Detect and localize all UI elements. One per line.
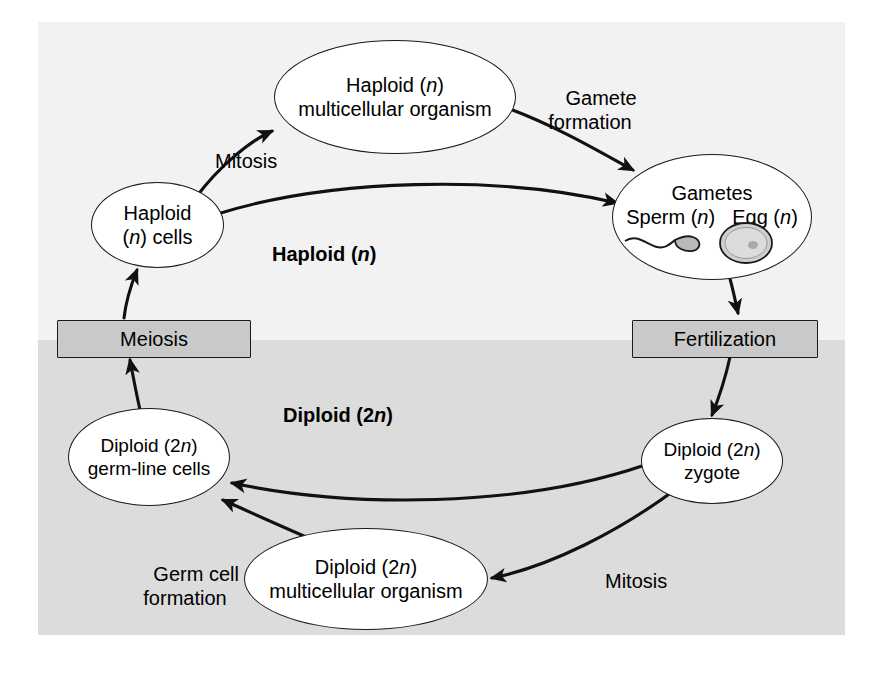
process-box-fertilization[interactable]: Fertilization <box>632 320 818 358</box>
edge-label-gamete-formation: Gamete formation <box>510 62 670 158</box>
ploidy-n-italic: n <box>129 226 140 248</box>
node-haploid-cells-line1: Haploid <box>122 201 192 225</box>
process-box-meiosis-label: Meiosis <box>120 327 188 351</box>
edge-germline-to-meiosis <box>130 360 140 410</box>
process-box-meiosis[interactable]: Meiosis <box>57 320 251 358</box>
edge-label-mitosis-top: Mitosis <box>170 125 300 197</box>
node-germline-line2: germ-line cells <box>88 457 210 480</box>
node-diploid-zygote[interactable]: Diploid (2n) zygote <box>641 418 783 504</box>
node-haploid-multicellular-organism[interactable]: Haploid (n) multicellular organism <box>274 40 516 154</box>
edge-label-germ-cell-formation: Germ cell formation <box>105 538 265 634</box>
zone-label-haploid: Haploid (n) <box>272 243 376 266</box>
node-diploid-multicellular-organism[interactable]: Diploid (2n) multicellular organism <box>244 528 488 630</box>
edge-label-germ-cell-formation-text: Germ cell formation <box>143 563 239 609</box>
ploidy-n-italic: n <box>697 206 708 228</box>
node-zygote-label: Diploid (2n) zygote <box>657 438 766 484</box>
node-haploid-cells-label: Haploid (n) cells <box>116 201 198 250</box>
node-haploid-organism-label: Haploid (n) multicellular organism <box>292 73 497 122</box>
node-gametes-title: Gametes <box>626 181 798 205</box>
node-diploid-organism-label: Diploid (2n) multicellular organism <box>263 555 468 604</box>
life-cycle-diagram: Haploid (n) multicellular organism Haplo… <box>0 0 885 674</box>
node-gametes[interactable]: Gametes Sperm (n) Egg (n) <box>612 154 812 280</box>
ploidy-n-italic: n <box>358 243 370 265</box>
sperm-icon <box>625 236 699 251</box>
node-zygote-line2: zygote <box>663 461 760 484</box>
edge-label-mitosis-top-text: Mitosis <box>215 150 277 172</box>
ploidy-n-italic: n <box>181 435 192 456</box>
edge-label-mitosis-bottom: Mitosis <box>560 545 690 617</box>
edge-fertilization-to-zygote <box>712 357 730 415</box>
edge-meiosis-to-haploid-cells <box>124 270 137 318</box>
ploidy-n-italic: n <box>744 439 755 460</box>
edge-label-mitosis-bottom-text: Mitosis <box>605 570 667 592</box>
node-diploid-germline-cells[interactable]: Diploid (2n) germ-line cells <box>68 408 230 506</box>
edge-zygote-to-germline <box>232 465 645 500</box>
process-box-fertilization-label: Fertilization <box>674 327 776 351</box>
node-haploid-organism-line2: multicellular organism <box>298 97 491 121</box>
node-germline-label: Diploid (2n) germ-line cells <box>82 434 216 480</box>
ploidy-n-italic: n <box>780 206 791 228</box>
ploidy-n-italic: n <box>426 74 437 96</box>
ploidy-n-italic: n <box>374 404 386 426</box>
node-diploid-organism-line2: multicellular organism <box>269 579 462 603</box>
zone-label-diploid: Diploid (2n) <box>283 404 393 427</box>
ploidy-n-italic: n <box>399 556 410 578</box>
edge-label-gamete-formation-text: Gamete formation <box>548 87 636 133</box>
node-gametes-label: Gametes Sperm (n) Egg (n) <box>620 181 804 230</box>
